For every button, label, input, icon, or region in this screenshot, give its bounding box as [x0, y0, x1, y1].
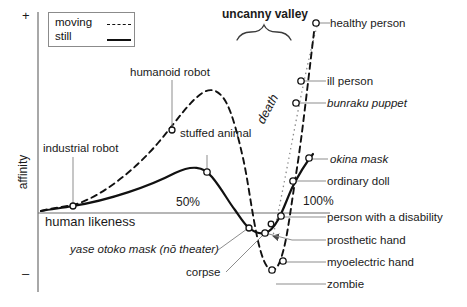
- prosthetic-hand-label: prosthetic hand: [327, 234, 406, 246]
- industrial-robot-label: industrial robot: [43, 142, 118, 154]
- uncanny-valley-figure: moving still + – affinity human likeness…: [0, 0, 467, 307]
- yase-otoko-mask-label: yase otoko mask (nō theater): [70, 243, 219, 255]
- point-okina-mask: [306, 155, 312, 161]
- point-ill-person: [298, 78, 304, 84]
- y-axis-min-symbol: –: [22, 268, 29, 280]
- ordinary-doll-label: ordinary doll: [327, 175, 390, 187]
- x-axis-tick-50: 50%: [176, 196, 200, 208]
- point-person-with-a-disability: [278, 213, 284, 219]
- point-healthy-person: [313, 20, 319, 26]
- person-with-a-disability-label: person with a disability: [327, 211, 443, 223]
- point-zombie: [269, 267, 275, 273]
- corpse-label: corpse: [186, 266, 221, 278]
- point-industrial-robot-still: [70, 203, 76, 209]
- point-prosthetic-hand: [268, 221, 274, 227]
- uncanny-valley-label: uncanny valley: [222, 8, 308, 20]
- myoelectric-hand-label: myoelectric hand: [327, 256, 414, 268]
- humanoid-robot-label: humanoid robot: [130, 66, 210, 78]
- healthy-person-label: healthy person: [330, 17, 405, 29]
- stuffed-animal-label: stuffed animal: [180, 126, 236, 140]
- zombie-label: zombie: [327, 278, 364, 290]
- legend: moving still: [48, 12, 135, 47]
- point-humanoid-robot: [169, 127, 175, 133]
- point-myoelectric-hand: [280, 258, 286, 264]
- legend-label-moving: moving: [55, 16, 92, 28]
- legend-label-still: still: [55, 30, 72, 42]
- point-yase-otoko-mask: [246, 225, 252, 231]
- y-axis-title: affinity: [17, 142, 29, 202]
- bunraku-puppet-label: bunraku puppet: [327, 97, 407, 109]
- y-axis-max-symbol: +: [22, 10, 30, 22]
- point-corpse: [262, 230, 268, 236]
- legend-swatch-still-solid: [107, 39, 131, 42]
- leader-prosthetic-hand: [265, 233, 326, 240]
- leader-yase-otoko: [218, 229, 247, 250]
- point-bunraku-puppet: [293, 100, 299, 106]
- legend-swatch-moving-dashed: [107, 24, 131, 26]
- ill-person-label: ill person: [327, 75, 373, 87]
- x-axis-tick-100: 100%: [303, 195, 334, 207]
- uncanny-valley-brace: [237, 25, 291, 40]
- point-stuffed-animal: [204, 169, 210, 175]
- okina-mask-label: okina mask: [330, 153, 388, 165]
- x-axis-title: human likeness: [45, 216, 135, 228]
- point-ordinary-doll: [290, 178, 296, 184]
